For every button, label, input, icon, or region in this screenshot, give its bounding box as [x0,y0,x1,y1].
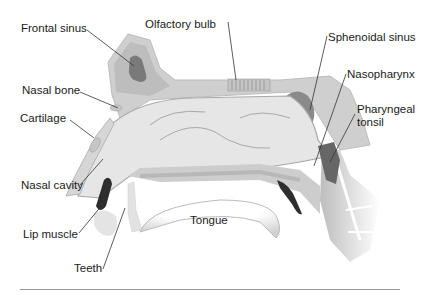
bottom-divider [20,289,400,290]
label-pharyngeal-tonsil-line2: tonsil [357,116,415,129]
label-pharyngeal-tonsil-line1: Pharyngeal [357,103,415,116]
label-olfactory-bulb: Olfactory bulb [145,18,216,31]
olfactory-bulb-shape [228,79,270,91]
label-lip-muscle: Lip muscle [23,228,78,241]
nasal-anatomy-illustration [0,0,430,296]
label-nasal-bone: Nasal bone [22,84,80,97]
label-teeth: Teeth [74,262,102,275]
label-frontal-sinus: Frontal sinus [21,22,87,35]
label-pharyngeal-tonsil: Pharyngeal tonsil [357,103,415,129]
label-cartilage: Cartilage [20,112,66,125]
label-tongue: Tongue [190,214,228,227]
label-nasal-cavity: Nasal cavity [21,179,83,192]
label-nasopharynx: Nasopharynx [347,68,415,81]
label-sphenoidal-sinus: Sphenoidal sinus [328,31,416,44]
teeth-shape [128,182,142,232]
